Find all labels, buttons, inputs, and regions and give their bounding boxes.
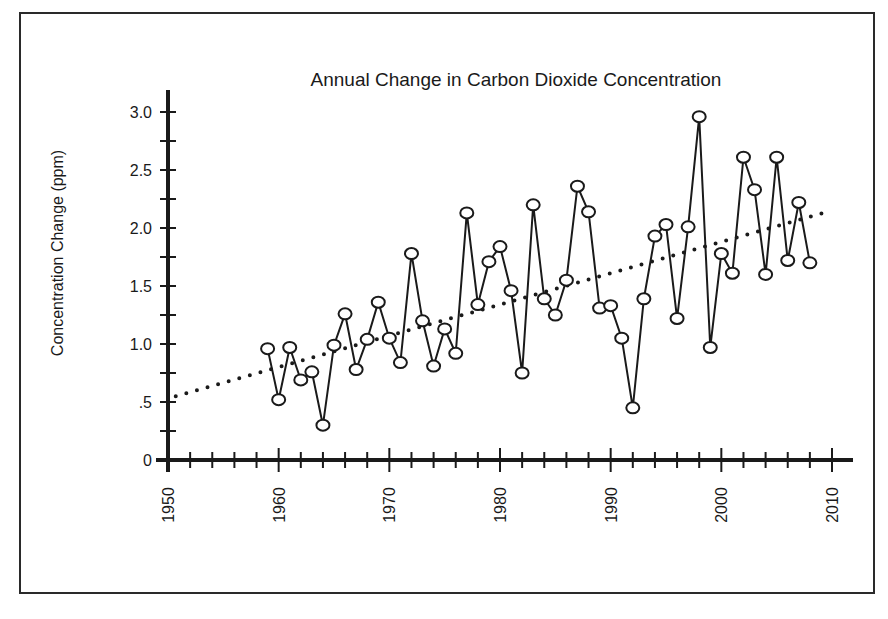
data-point-marker bbox=[460, 207, 473, 218]
y-tick-label: 2.0 bbox=[130, 220, 152, 237]
data-point-marker bbox=[505, 285, 518, 296]
data-point-marker bbox=[471, 299, 484, 310]
data-point-marker bbox=[527, 199, 540, 210]
data-point-marker bbox=[637, 293, 650, 304]
data-point-marker bbox=[516, 368, 529, 379]
data-point-marker bbox=[726, 268, 739, 279]
data-point-marker bbox=[781, 255, 794, 266]
chart-plot: Annual Change in Carbon Dioxide Concentr… bbox=[0, 0, 888, 619]
data-point-marker bbox=[671, 313, 684, 324]
data-point-marker bbox=[571, 181, 584, 192]
data-point-marker bbox=[582, 206, 595, 217]
data-point-marker bbox=[715, 248, 728, 259]
data-point-marker bbox=[494, 241, 507, 252]
data-series bbox=[261, 111, 816, 431]
data-point-marker bbox=[372, 297, 385, 308]
data-point-marker bbox=[693, 111, 706, 122]
data-point-marker bbox=[283, 342, 296, 353]
y-tick-label: 2.5 bbox=[130, 162, 152, 179]
x-tick-label: 1990 bbox=[603, 487, 620, 523]
data-point-marker bbox=[438, 323, 451, 334]
data-point-marker bbox=[626, 402, 639, 413]
data-point-marker bbox=[604, 300, 617, 311]
data-point-marker bbox=[272, 394, 285, 405]
data-point-marker bbox=[560, 275, 573, 286]
x-tick-label: 1980 bbox=[492, 487, 509, 523]
y-axis-label: Concentration Change (ppm) bbox=[49, 150, 66, 356]
data-point-marker bbox=[648, 231, 661, 242]
data-point-marker bbox=[405, 248, 418, 259]
data-point-marker bbox=[316, 420, 329, 431]
chart-title: Annual Change in Carbon Dioxide Concentr… bbox=[311, 69, 722, 90]
y-tick-label: 0 bbox=[143, 452, 152, 469]
data-point-marker bbox=[538, 293, 551, 304]
x-tick-label: 1970 bbox=[381, 487, 398, 523]
data-point-marker bbox=[482, 256, 495, 267]
data-point-marker bbox=[427, 361, 440, 372]
y-tick-label: 1.5 bbox=[130, 278, 152, 295]
data-point-marker bbox=[660, 219, 673, 230]
y-tick-label: 1.0 bbox=[130, 336, 152, 353]
data-point-marker bbox=[792, 197, 805, 208]
y-tick-label: 3.0 bbox=[130, 104, 152, 121]
data-point-marker bbox=[394, 357, 407, 368]
data-point-marker bbox=[549, 310, 562, 321]
data-point-marker bbox=[305, 366, 318, 377]
data-point-marker bbox=[294, 374, 307, 385]
data-point-marker bbox=[704, 342, 717, 353]
data-point-marker bbox=[416, 315, 429, 326]
data-point-marker bbox=[361, 334, 374, 345]
trendline bbox=[176, 211, 832, 397]
trendline-path bbox=[176, 211, 832, 397]
x-tick-label: 2000 bbox=[713, 487, 730, 523]
data-point-marker bbox=[383, 333, 396, 344]
data-point-marker bbox=[328, 340, 341, 351]
data-point-marker bbox=[748, 184, 761, 195]
data-point-marker bbox=[615, 333, 628, 344]
data-point-marker bbox=[350, 364, 363, 375]
data-point-marker bbox=[737, 152, 750, 163]
data-point-marker bbox=[770, 152, 783, 163]
y-tick-label: .5 bbox=[139, 394, 152, 411]
x-tick-label: 1950 bbox=[160, 487, 177, 523]
data-point-marker bbox=[449, 348, 462, 359]
data-point-marker bbox=[759, 269, 772, 280]
data-point-marker bbox=[261, 343, 274, 354]
data-point-marker bbox=[682, 221, 695, 232]
data-point-marker bbox=[803, 257, 816, 268]
x-tick-label: 1960 bbox=[271, 487, 288, 523]
data-point-marker bbox=[339, 308, 352, 319]
x-tick-label: 2010 bbox=[824, 487, 841, 523]
